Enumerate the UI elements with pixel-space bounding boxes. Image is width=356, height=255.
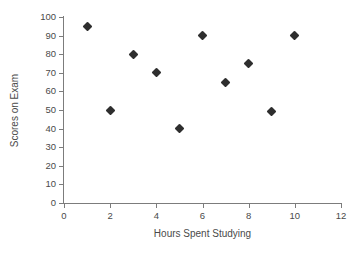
x-axis-tick [110,203,111,208]
x-axis-tick [203,203,204,208]
x-axis-tick-label: 10 [290,211,301,221]
x-axis-tick [156,203,157,208]
y-axis-tick-label: 60 [45,87,56,97]
x-axis-tick [64,203,65,208]
plot-area: 0102030405060708090100024681012 [64,17,341,203]
y-axis-tick [59,36,64,37]
y-axis-tick [59,166,64,167]
y-axis-title: Scores on Exam [8,17,22,203]
x-axis-tick-label: 8 [246,211,251,221]
x-axis-tick-label: 2 [108,211,113,221]
data-point-marker [221,77,231,87]
y-axis-tick [59,17,64,18]
y-axis-title-text: Scores on Exam [10,73,21,146]
data-point-marker [151,68,161,78]
x-axis-tick [249,203,250,208]
y-axis-tick-label: 100 [40,12,56,22]
y-axis-tick-label: 80 [45,49,56,59]
y-axis-tick-label: 40 [45,124,56,134]
x-axis-tick [341,203,342,208]
x-axis-tick-label: 12 [336,211,347,221]
data-point-marker [290,31,300,41]
data-point-marker [128,49,138,59]
data-point-marker [105,105,115,115]
y-axis-tick-label: 50 [45,105,56,115]
x-axis-tick-label: 4 [154,211,159,221]
y-axis-tick-label: 0 [51,198,56,208]
y-axis-tick-label: 10 [45,180,56,190]
y-axis-tick [59,147,64,148]
data-point-marker [244,59,254,69]
x-axis-tick-label: 6 [200,211,205,221]
y-axis-tick-label: 70 [45,68,56,78]
x-axis-tick [295,203,296,208]
y-axis-tick-label: 30 [45,142,56,152]
y-axis-tick [59,54,64,55]
y-axis-tick [59,129,64,130]
y-axis-tick [59,73,64,74]
data-point-marker [82,21,92,31]
y-axis-tick [59,110,64,111]
data-point-marker [267,107,277,117]
x-axis-tick-label: 0 [61,211,66,221]
y-axis-tick [59,91,64,92]
y-axis-tick [59,184,64,185]
x-axis-title: Hours Spent Studying [64,228,341,239]
scatter-chart: 0102030405060708090100024681012 Scores o… [0,0,356,255]
y-axis-tick-label: 90 [45,31,56,41]
data-point-marker [174,124,184,134]
data-point-marker [198,31,208,41]
y-axis-tick-label: 20 [45,161,56,171]
